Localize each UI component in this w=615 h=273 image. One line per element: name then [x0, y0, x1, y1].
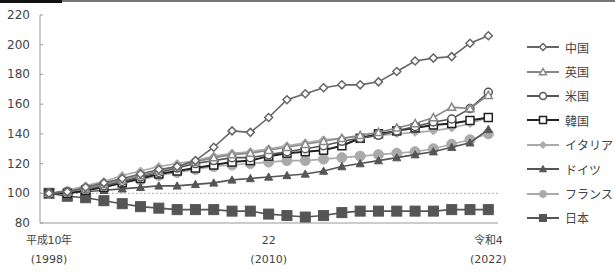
x-tick-year: (1998) [31, 253, 68, 266]
legend-item: 米国 [525, 84, 613, 108]
x-tick-year: (2022) [470, 253, 507, 266]
x-tick-label: 平成10年 [26, 233, 73, 247]
legend-marker-icon [525, 41, 561, 53]
legend-marker-icon [525, 90, 561, 102]
legend-item: ドイツ [525, 157, 613, 181]
legend-item: 日本 [525, 206, 613, 230]
x-tick-label: 22 [262, 234, 276, 247]
legend-label: 米国 [565, 87, 589, 104]
y-tick-label: 120 [7, 157, 30, 171]
y-tick-label: 220 [7, 8, 30, 22]
legend-label: フランス [565, 185, 613, 202]
line-chart: 80100120140160180200220平成10年(1998)22(201… [0, 0, 615, 273]
y-tick-label: 200 [7, 38, 30, 52]
y-tick-label: 180 [7, 67, 30, 81]
legend-label: 中国 [565, 39, 589, 56]
legend-marker-icon [525, 163, 561, 175]
x-tick-label: 令和4 [474, 233, 503, 247]
legend-label: イタリア [565, 136, 613, 153]
legend-item: フランス [525, 181, 613, 205]
y-tick-label: 160 [7, 97, 30, 111]
legend-label: 英国 [565, 63, 589, 80]
legend-marker-icon [525, 66, 561, 78]
legend-label: 日本 [565, 209, 589, 226]
legend-marker-icon [525, 212, 561, 224]
series-フランス [44, 129, 493, 198]
chart-axes: 80100120140160180200220平成10年(1998)22(201… [7, 8, 506, 266]
y-tick-label: 80 [15, 216, 30, 230]
legend-item: イタリア [525, 133, 613, 157]
chart-legend: 中国英国米国韓国イタリアドイツフランス日本 [525, 35, 613, 230]
legend-label: 韓国 [565, 112, 589, 129]
legend-item: 韓国 [525, 108, 613, 132]
legend-item: 中国 [525, 35, 613, 59]
legend-marker-icon [525, 139, 561, 151]
y-tick-label: 100 [7, 186, 30, 200]
legend-marker-icon [525, 114, 561, 126]
legend-item: 英国 [525, 59, 613, 83]
legend-marker-icon [525, 188, 561, 200]
x-tick-year: (2010) [250, 253, 287, 266]
y-tick-label: 140 [7, 127, 30, 141]
legend-label: ドイツ [565, 161, 601, 178]
